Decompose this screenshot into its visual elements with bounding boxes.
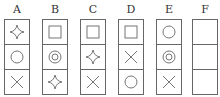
circle-icon <box>5 45 29 70</box>
cross-icon <box>81 70 105 94</box>
empty-cell <box>193 20 217 45</box>
empty-cell <box>193 70 217 94</box>
shape-box <box>118 19 144 95</box>
empty-cell <box>193 45 217 70</box>
circle-icon <box>157 20 181 45</box>
square-icon <box>119 20 143 45</box>
star-icon <box>5 20 29 45</box>
square-icon <box>81 20 105 45</box>
shape-box <box>80 19 106 95</box>
column-label: C <box>80 4 106 16</box>
star-icon <box>43 70 67 94</box>
square-icon <box>43 20 67 45</box>
column-label: A <box>4 4 30 16</box>
shape-box <box>156 19 182 95</box>
cross-icon <box>119 45 143 70</box>
column-label: B <box>42 4 68 16</box>
circle-icon <box>119 70 143 94</box>
column-label: E <box>156 4 182 16</box>
column-label: F <box>192 4 218 16</box>
double-circle-icon <box>157 45 181 70</box>
shape-box <box>42 19 68 95</box>
shape-box <box>4 19 30 95</box>
cross-icon <box>5 70 29 94</box>
star-icon <box>81 45 105 70</box>
cross-icon <box>157 70 181 94</box>
shape-box <box>192 19 218 95</box>
double-circle-icon <box>43 45 67 70</box>
column-label: D <box>118 4 144 16</box>
